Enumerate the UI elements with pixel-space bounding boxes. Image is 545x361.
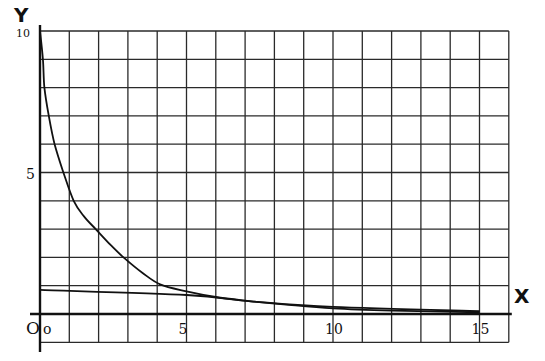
x-tick-label: 10 (325, 321, 343, 337)
x-tick-label: 15 (472, 321, 490, 337)
x-tick-label: 5 (179, 321, 188, 337)
x-tick-label: o (43, 321, 51, 337)
origin-label: O (26, 318, 40, 338)
chart: o51015510 Y X O (0, 0, 545, 361)
y-tick-label: 10 (16, 27, 30, 40)
y-tick-label: 5 (26, 166, 35, 182)
y-axis-label: Y (13, 3, 29, 27)
tick-labels: o51015510 (16, 27, 489, 337)
x-axis-label: X (514, 284, 530, 308)
grid-lines (40, 31, 509, 342)
series-steep-curve (40, 31, 480, 312)
series-shallow-line (40, 290, 480, 311)
